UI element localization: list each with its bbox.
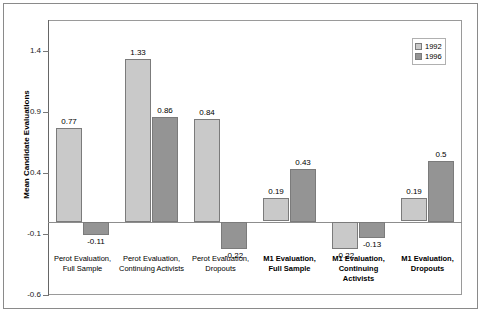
zero-line xyxy=(48,222,462,223)
y-tick-mark xyxy=(43,234,49,235)
bar-value-label: 1.33 xyxy=(117,48,159,57)
y-tick-label-wrap: 0.4 xyxy=(0,168,41,177)
legend: 19921996 xyxy=(412,38,446,65)
bar xyxy=(401,198,427,221)
bar xyxy=(125,59,151,222)
y-tick-mark xyxy=(43,112,49,113)
x-category-label: M1 Evaluation, Full Sample xyxy=(255,254,324,274)
bar xyxy=(56,128,82,222)
bar xyxy=(263,198,289,221)
bar xyxy=(428,161,454,222)
y-tick-label: -0.6 xyxy=(27,290,41,299)
x-category-label: Perot Evaluation, Full Sample xyxy=(48,254,117,274)
legend-label: 1996 xyxy=(425,52,442,61)
x-category-label: Perot Evaluation, Dropouts xyxy=(186,254,255,274)
x-category-label: M1 Evaluation, Dropouts xyxy=(393,254,462,274)
x-category-label: Perot Evaluation, Continuing Activists xyxy=(117,254,186,274)
legend-swatch xyxy=(415,43,422,50)
y-tick-label: -0.1 xyxy=(27,229,41,238)
y-tick-label-wrap: 0.9 xyxy=(0,107,41,116)
bar-value-label: 0.84 xyxy=(186,108,228,117)
legend-label: 1992 xyxy=(425,42,442,51)
y-tick-mark xyxy=(43,51,49,52)
chart-container: 1.40.90.4-0.1-0.6 Mean Candidate Evaluat… xyxy=(0,0,488,319)
y-tick-label-wrap: 1.4 xyxy=(0,46,41,55)
bar-value-label: 0.5 xyxy=(420,150,462,159)
bar-value-label: -0.13 xyxy=(351,240,393,249)
y-tick-label: 0.4 xyxy=(30,168,41,177)
legend-item: 1992 xyxy=(415,42,442,51)
bar xyxy=(290,169,316,222)
y-tick-label: 0.9 xyxy=(30,107,41,116)
bar-value-label: -0.11 xyxy=(75,237,117,246)
bar xyxy=(83,222,109,235)
y-tick-label-wrap: -0.1 xyxy=(0,229,41,238)
y-tick-label-wrap: -0.6 xyxy=(0,290,41,299)
y-tick-mark xyxy=(43,295,49,296)
bar xyxy=(194,119,220,222)
bar-value-label: 0.43 xyxy=(282,158,324,167)
legend-item: 1996 xyxy=(415,52,442,61)
legend-swatch xyxy=(415,53,422,60)
y-tick-mark xyxy=(43,173,49,174)
bar xyxy=(359,222,385,238)
bar-value-label: 0.77 xyxy=(48,117,90,126)
bar xyxy=(152,117,178,222)
bar-value-label: 0.86 xyxy=(144,106,186,115)
y-tick-label: 1.4 xyxy=(30,46,41,55)
bar xyxy=(221,222,247,249)
x-category-label: M1 Evaluation, Continuing Activists xyxy=(324,254,393,284)
y-axis-title: Mean Candidate Evaluations xyxy=(22,65,31,225)
